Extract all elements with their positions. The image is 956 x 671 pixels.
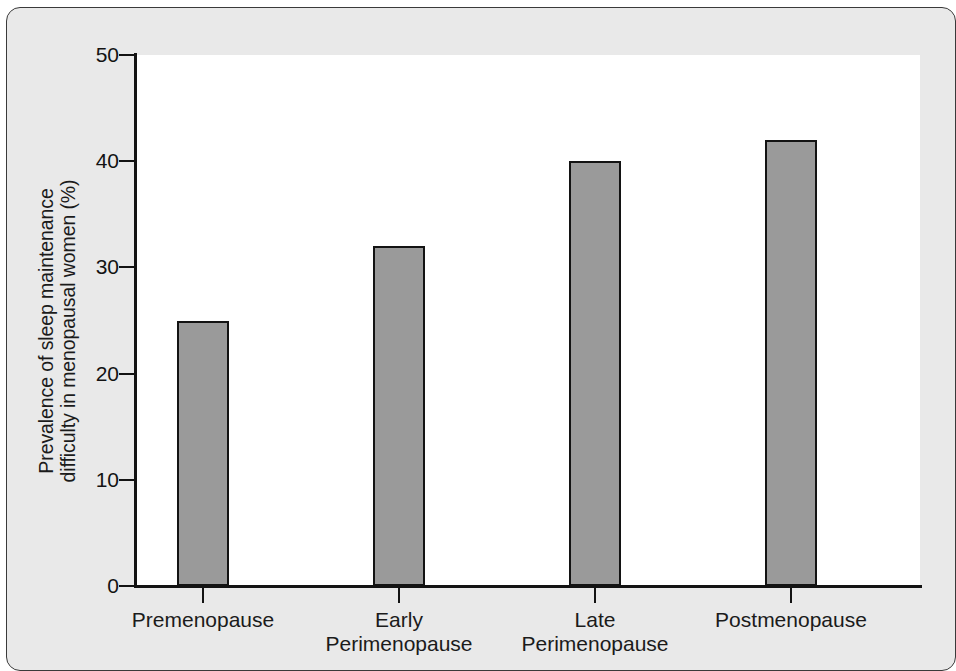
y-axis-tick (119, 479, 135, 481)
y-axis-title-line-1: Prevalence of sleep maintenance (35, 188, 57, 473)
y-axis-tick (119, 160, 135, 162)
y-axis-tick (119, 54, 135, 56)
y-axis-tick-label: 40 (59, 149, 119, 173)
y-axis-tick (119, 585, 135, 587)
y-axis-tick-label: 0 (59, 574, 119, 598)
bar (765, 140, 817, 586)
y-axis-tick-label: 10 (59, 468, 119, 492)
y-axis-tick (119, 373, 135, 375)
y-axis-spine (134, 53, 137, 588)
y-axis-tick-label: 30 (59, 255, 119, 279)
x-axis-tick-label: Postmenopause (681, 608, 901, 632)
x-axis-tick (398, 588, 400, 603)
x-axis-tick (594, 588, 596, 603)
x-axis-tick-label-line: Perimenopause (289, 632, 509, 656)
bar (373, 246, 425, 586)
x-axis-tick-label: EarlyPerimenopause (289, 608, 509, 655)
bar (177, 321, 229, 587)
x-axis-tick-label: Premenopause (93, 608, 313, 632)
y-axis-tick-label: 20 (59, 362, 119, 386)
x-axis-tick-label-line: Late (485, 608, 705, 632)
y-axis-tick (119, 266, 135, 268)
y-axis-tick-label: 50 (59, 43, 119, 67)
x-axis-tick-label-line: Postmenopause (681, 608, 901, 632)
x-axis-tick-label-line: Early (289, 608, 509, 632)
x-axis-tick-label: LatePerimenopause (485, 608, 705, 655)
bar (569, 161, 621, 586)
bar-chart: Prevalence of sleep maintenance difficul… (7, 8, 956, 671)
x-axis-tick-label-line: Premenopause (93, 608, 313, 632)
x-axis-tick-label-line: Perimenopause (485, 632, 705, 656)
x-axis-tick (790, 588, 792, 603)
y-axis-title-line-2: difficulty in menopausal women (%) (57, 180, 79, 483)
x-axis-tick (202, 588, 204, 603)
figure-frame: Prevalence of sleep maintenance difficul… (6, 7, 956, 671)
